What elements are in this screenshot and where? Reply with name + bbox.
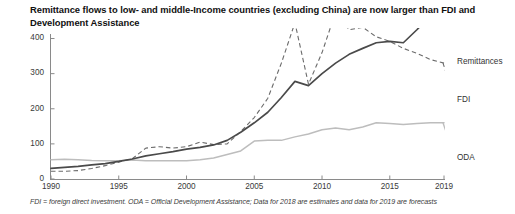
x-tick-marks	[51, 176, 444, 180]
y-axis-tick-label: 200	[18, 104, 44, 113]
axes-group	[51, 34, 446, 180]
x-axis-tick-label: 1990	[31, 182, 71, 191]
chart-footnote: FDI = foreign direct investment. ODA = O…	[30, 198, 510, 206]
chart-svg	[50, 28, 445, 180]
series-label-fdi: FDI	[457, 95, 470, 104]
series-label-remittances: Remittances	[457, 57, 503, 66]
y-axis-tick-label: 400	[18, 33, 44, 42]
chart-title: Remittance flows to low- and middle-Inco…	[30, 4, 490, 29]
legend-connector-oda	[443, 123, 445, 158]
x-axis-tick-label: 2019	[424, 182, 464, 191]
series-group	[51, 28, 444, 171]
y-axis-tick-label: 300	[18, 68, 44, 77]
x-axis-tick-label: 2000	[167, 182, 207, 191]
chart-figure: Remittance flows to low- and middle-Inco…	[0, 0, 515, 214]
series-line-fdi	[51, 28, 444, 171]
x-axis-tick-label: 1995	[99, 182, 139, 191]
series-line-remittances	[51, 28, 444, 168]
series-label-oda: ODA	[457, 153, 475, 162]
plot-area	[50, 28, 445, 180]
x-axis-tick-label: 2015	[370, 182, 410, 191]
legend-connector-fdi	[443, 63, 445, 100]
y-tick-marks	[51, 39, 55, 179]
legend-connectors	[443, 28, 445, 158]
legend-connector-remittances	[443, 28, 445, 62]
y-axis-tick-label: 100	[18, 139, 44, 148]
x-axis-tick-label: 2005	[234, 182, 274, 191]
x-axis-tick-label: 2010	[302, 182, 342, 191]
